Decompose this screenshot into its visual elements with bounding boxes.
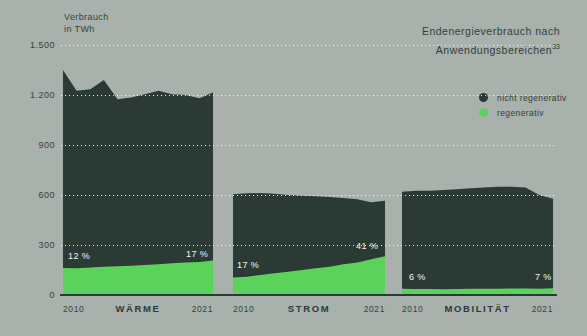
mobilitaet-year-start: 2010 [402, 304, 423, 314]
waerme-start-share-label: 12 % [68, 251, 90, 261]
waerme-x-axis: 2010 WÄRME 2021 [63, 303, 213, 316]
y-tick-600: 600 [0, 189, 55, 201]
y-axis-unit-label: Verbrauch in TWh [64, 11, 109, 35]
y-axis-unit-line1: Verbrauch [64, 11, 109, 23]
waerme-year-start: 2010 [63, 304, 84, 314]
strom-year-end: 2021 [364, 304, 385, 314]
strom-area-chart [233, 45, 385, 295]
mobilitaet-category-label: MOBILITÄT [444, 303, 510, 314]
strom-year-start: 2010 [233, 304, 254, 314]
mobilitaet-end-share-label: 7 % [535, 272, 552, 282]
mobilitaet-area-chart [402, 45, 553, 295]
waerme-category-label: WÄRME [116, 303, 161, 314]
y-tick-300: 300 [0, 239, 55, 251]
waerme-year-end: 2021 [192, 304, 213, 314]
gridline-600 [61, 195, 557, 196]
gridline-900 [61, 145, 557, 146]
y-tick-1200: 1.200 [0, 89, 55, 101]
strom-category-label: STROM [288, 303, 330, 314]
mobilitaet-start-share-label: 6 % [409, 272, 426, 282]
strom-end-share-label: 41 % [356, 241, 378, 251]
mobilitaet-area-svg [402, 45, 553, 295]
y-tick-900: 900 [0, 139, 55, 151]
energy-consumption-chart-page: Verbrauch in TWh Endenergieverbrauch nac… [0, 0, 587, 336]
strom-start-share-label: 17 % [237, 260, 259, 270]
y-axis-unit-line2: in TWh [64, 23, 109, 35]
waerme-end-share-label: 17 % [186, 249, 208, 259]
chart-title-line1: Endenergieverbrauch nach [422, 24, 560, 39]
mobilitaet-year-end: 2021 [532, 304, 553, 314]
gridline-300 [61, 245, 557, 246]
mobilitaet-x-axis: 2010 MOBILITÄT 2021 [402, 303, 553, 316]
y-tick-0: 0 [0, 289, 55, 301]
x-axis-baseline [60, 294, 557, 296]
y-tick-1500: 1.500 [0, 39, 55, 51]
strom-area-svg [233, 45, 385, 295]
gridline-1200 [61, 95, 557, 96]
gridline-1500 [61, 45, 557, 46]
strom-x-axis: 2010 STROM 2021 [233, 303, 385, 316]
